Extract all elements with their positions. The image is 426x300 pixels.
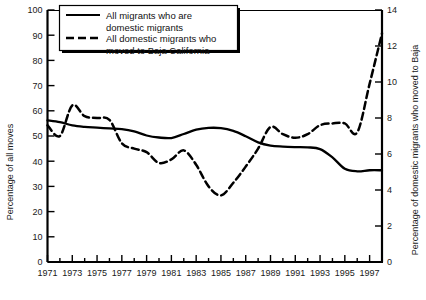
left-tick-label: 100 bbox=[27, 5, 42, 15]
x-tick-label: 1987 bbox=[236, 268, 256, 278]
x-tick-label: 1981 bbox=[161, 268, 181, 278]
chart-legend: All migrants who are domestic migrants A… bbox=[60, 6, 241, 56]
chart-canvas: 0102030405060708090100 02468101214 19711… bbox=[0, 0, 426, 300]
legend-item-1-line2: moved to Baja California bbox=[106, 45, 210, 56]
legend-item-0-line2: domestic migrants bbox=[106, 22, 183, 33]
left-axis-title: Percentage of all moves bbox=[5, 123, 15, 220]
left-tick-label: 90 bbox=[32, 31, 42, 41]
left-tick-label: 30 bbox=[32, 182, 42, 192]
x-tick-label: 1979 bbox=[137, 268, 157, 278]
left-tick-label: 40 bbox=[32, 157, 42, 167]
x-tick-label: 1985 bbox=[211, 268, 231, 278]
left-tick-label: 10 bbox=[32, 232, 42, 242]
right-tick-label: 8 bbox=[387, 113, 392, 123]
x-tick-label: 1973 bbox=[62, 268, 82, 278]
x-tick-label: 1991 bbox=[285, 268, 305, 278]
left-tick-label: 20 bbox=[32, 207, 42, 217]
left-tick-label: 50 bbox=[32, 131, 42, 141]
right-axis-title: Percentage of domestic migrants who move… bbox=[410, 45, 420, 256]
x-tick-label: 1975 bbox=[87, 268, 107, 278]
x-tick-label: 1989 bbox=[260, 268, 280, 278]
chart-figure: 0102030405060708090100 02468101214 19711… bbox=[0, 0, 426, 300]
x-tick-label: 1983 bbox=[186, 268, 206, 278]
legend-item-1-line1: All domestic migrants who bbox=[106, 33, 216, 44]
right-tick-label: 6 bbox=[387, 149, 392, 159]
left-tick-label: 80 bbox=[32, 56, 42, 66]
legend-item-0-line1: All migrants who are bbox=[106, 10, 192, 21]
x-tick-label: 1993 bbox=[310, 268, 330, 278]
left-tick-label: 70 bbox=[32, 81, 42, 91]
right-tick-label: 0 bbox=[387, 257, 392, 267]
right-tick-label: 4 bbox=[387, 185, 392, 195]
x-tick-label: 1971 bbox=[37, 268, 57, 278]
right-tick-label: 10 bbox=[387, 77, 397, 87]
left-tick-label: 0 bbox=[37, 257, 42, 267]
x-tick-label: 1977 bbox=[112, 268, 132, 278]
x-tick-label: 1997 bbox=[360, 268, 380, 278]
right-tick-label: 14 bbox=[387, 5, 397, 15]
right-tick-label: 2 bbox=[387, 221, 392, 231]
left-tick-label: 60 bbox=[32, 106, 42, 116]
right-tick-label: 12 bbox=[387, 41, 397, 51]
x-tick-label: 1995 bbox=[335, 268, 355, 278]
